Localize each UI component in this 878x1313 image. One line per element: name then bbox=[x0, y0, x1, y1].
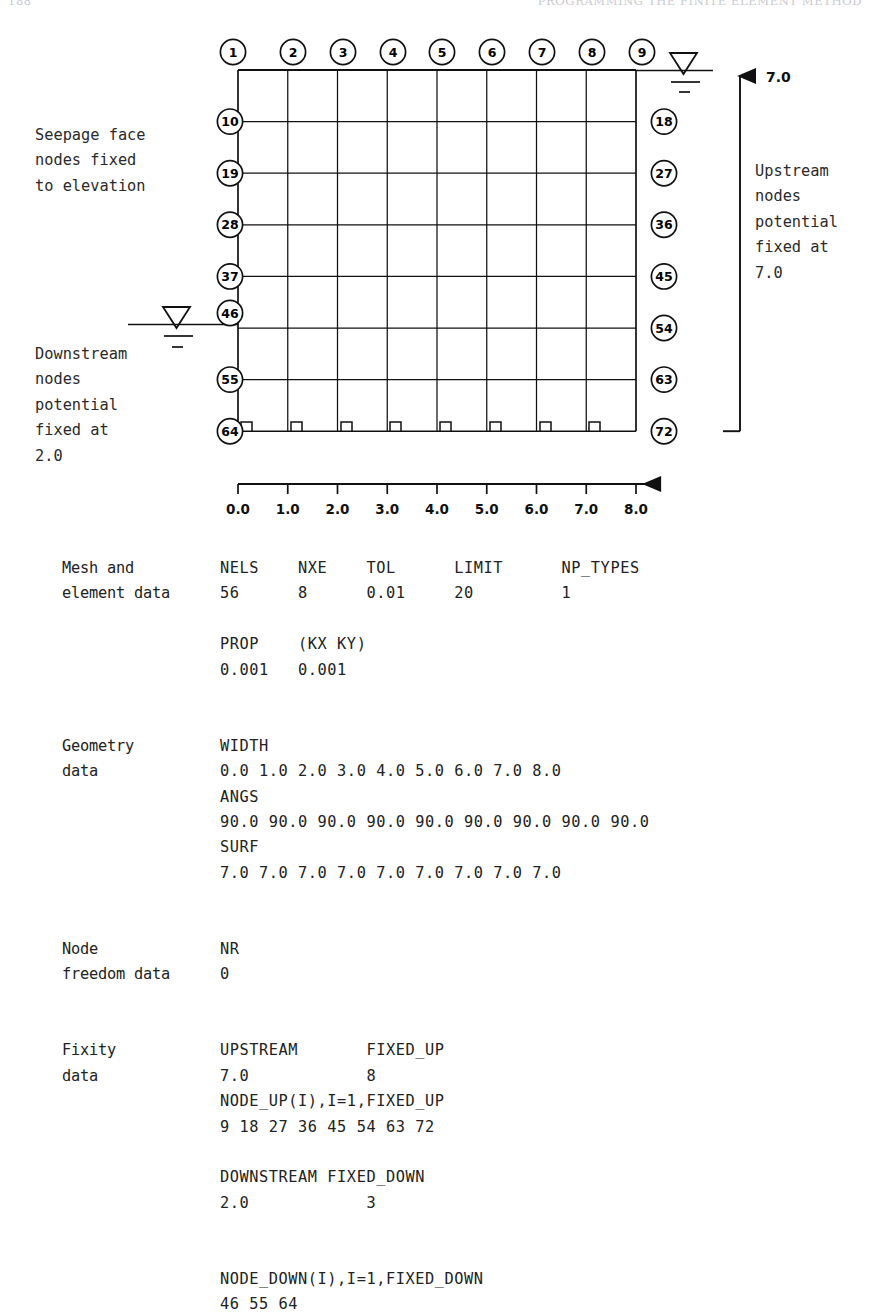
section-label-mesh-line2: element data bbox=[62, 581, 170, 606]
node-bubble: 64 bbox=[217, 419, 242, 444]
node-label: 3 bbox=[339, 45, 348, 60]
axis-tick-label: 3.0 bbox=[375, 501, 399, 517]
node-label: 63 bbox=[655, 372, 672, 387]
node-bubble: 6 bbox=[479, 39, 504, 64]
listing-spacer bbox=[0, 1216, 878, 1241]
listing-row: 0.001 0.001 bbox=[0, 658, 878, 683]
listing-row: data 0.0 1.0 2.0 3.0 4.0 5.0 6.0 7.0 8.0 bbox=[0, 759, 878, 784]
section-label-geometry-line2: data bbox=[62, 759, 98, 784]
node-label: 6 bbox=[488, 45, 497, 60]
section-label-mesh-line1: Mesh and bbox=[62, 556, 134, 581]
node-label: 2 bbox=[289, 45, 298, 60]
node-label: 18 bbox=[655, 114, 672, 129]
listing-value: 7.0 7.0 7.0 7.0 7.0 7.0 7.0 7.0 7.0 bbox=[220, 861, 562, 886]
listing-value: 0.0 1.0 2.0 3.0 4.0 5.0 6.0 7.0 8.0 bbox=[220, 759, 562, 784]
node-label: 37 bbox=[221, 269, 238, 284]
node-bubble: 37 bbox=[217, 264, 242, 289]
listing-spacer bbox=[0, 988, 878, 1013]
node-label: 8 bbox=[588, 45, 597, 60]
listing-row: NODE_UP(I),I=1,FIXED_UP bbox=[0, 1089, 878, 1114]
listing-value: 0.001 0.001 bbox=[220, 658, 347, 683]
right-node-labels: 18 27 36 45 54 bbox=[651, 109, 676, 444]
section-label-fixity-line1: Fixity bbox=[62, 1038, 116, 1063]
node-bubble: 54 bbox=[651, 315, 676, 340]
node-bubble: 36 bbox=[651, 212, 676, 237]
listing-spacer bbox=[0, 708, 878, 733]
listing-value: PROP (KX KY) bbox=[220, 632, 366, 657]
listing-row: 90.0 90.0 90.0 90.0 90.0 90.0 90.0 90.0 … bbox=[0, 810, 878, 835]
seepage-face-annotation: Seepage face nodes fixed to elevation bbox=[35, 126, 155, 195]
node-bubble: 46 bbox=[217, 300, 242, 325]
node-bubble: 4 bbox=[380, 39, 405, 64]
node-label: 45 bbox=[655, 269, 672, 284]
axis-tick-label: 1.0 bbox=[276, 501, 300, 517]
node-bubble: 28 bbox=[217, 212, 242, 237]
listing-spacer bbox=[0, 683, 878, 708]
listing-value: UPSTREAM FIXED_UP bbox=[220, 1038, 444, 1063]
node-bubble: 2 bbox=[280, 39, 305, 64]
listing-value: 56 8 0.01 20 1 bbox=[220, 581, 571, 606]
listing-spacer bbox=[0, 911, 878, 936]
listing-spacer bbox=[0, 1242, 878, 1267]
node-bubble: 1 bbox=[220, 39, 245, 64]
listing-row: DOWNSTREAM FIXED_DOWN bbox=[0, 1165, 878, 1190]
listing-value: WIDTH bbox=[220, 734, 269, 759]
node-label: 36 bbox=[655, 217, 673, 232]
section-label-geometry-line1: Geometry bbox=[62, 734, 134, 759]
listing-value: 9 18 27 36 45 54 63 72 bbox=[220, 1115, 435, 1140]
listing-value: DOWNSTREAM FIXED_DOWN bbox=[220, 1165, 425, 1190]
node-bubble: 8 bbox=[579, 39, 604, 64]
axis-tick-label: 4.0 bbox=[425, 501, 449, 517]
listing-value: 46 55 64 bbox=[220, 1292, 298, 1313]
x-axis-scale bbox=[238, 484, 645, 494]
listing-row: freedom data 0 bbox=[0, 962, 878, 987]
listing-value: NELS NXE TOL LIMIT NP_TYPES bbox=[220, 556, 640, 581]
listing-row: Mesh and NELS NXE TOL LIMIT NP_TYPES bbox=[0, 556, 878, 581]
listing-value: SURF bbox=[220, 835, 259, 860]
axis-tick-label: 7.0 bbox=[574, 501, 598, 517]
listing-value: 7.0 8 bbox=[220, 1064, 376, 1089]
downstream-annotation: Downstream nodes potential fixed at 2.0 bbox=[35, 345, 136, 465]
listing-row: data 7.0 8 bbox=[0, 1064, 878, 1089]
elevation-value-label: 7.0 bbox=[766, 69, 791, 85]
node-bubble: 45 bbox=[651, 264, 676, 289]
section-label-node-line2: freedom data bbox=[62, 962, 170, 987]
node-bubble: 72 bbox=[651, 419, 676, 444]
listing-spacer bbox=[0, 886, 878, 911]
node-label: 9 bbox=[638, 45, 647, 60]
top-node-labels: 1 2 3 4 5 bbox=[220, 39, 654, 64]
mesh-diagram-svg: 1 2 3 4 5 bbox=[0, 0, 878, 540]
elevation-dimension bbox=[723, 76, 740, 431]
node-label: 4 bbox=[389, 45, 398, 60]
node-label: 64 bbox=[221, 424, 239, 439]
listing-row: NODE_DOWN(I),I=1,FIXED_DOWN bbox=[0, 1267, 878, 1292]
node-label: 54 bbox=[655, 321, 673, 336]
node-bubble: 19 bbox=[217, 161, 242, 186]
input-data-listing: Mesh and NELS NXE TOL LIMIT NP_TYPES ele… bbox=[0, 556, 878, 1313]
node-bubble: 27 bbox=[651, 161, 676, 186]
node-label: 27 bbox=[655, 166, 672, 181]
listing-row: Fixity UPSTREAM FIXED_UP bbox=[0, 1038, 878, 1063]
listing-value: NR bbox=[220, 937, 240, 962]
node-bubble: 7 bbox=[529, 39, 554, 64]
node-label: 7 bbox=[538, 45, 547, 60]
node-bubble: 5 bbox=[429, 39, 454, 64]
axis-tick-label: 5.0 bbox=[475, 501, 499, 517]
listing-value: 0 bbox=[220, 962, 230, 987]
node-bubble: 63 bbox=[651, 367, 676, 392]
listing-row: 2.0 3 bbox=[0, 1191, 878, 1216]
listing-row: Node NR bbox=[0, 937, 878, 962]
listing-row: element data 56 8 0.01 20 1 bbox=[0, 581, 878, 606]
axis-tick-label: 8.0 bbox=[624, 501, 648, 517]
node-bubble: 55 bbox=[217, 367, 242, 392]
mesh-grid bbox=[238, 70, 636, 431]
listing-value: NODE_DOWN(I),I=1,FIXED_DOWN bbox=[220, 1267, 484, 1292]
listing-value: ANGS bbox=[220, 785, 259, 810]
listing-row: PROP (KX KY) bbox=[0, 632, 878, 657]
base-fixity-marks bbox=[241, 422, 600, 431]
axis-tick-label: 6.0 bbox=[525, 501, 549, 517]
section-label-node-line1: Node bbox=[62, 937, 98, 962]
listing-value: 90.0 90.0 90.0 90.0 90.0 90.0 90.0 90.0 … bbox=[220, 810, 649, 835]
axis-tick-label: 0.0 bbox=[226, 501, 250, 517]
